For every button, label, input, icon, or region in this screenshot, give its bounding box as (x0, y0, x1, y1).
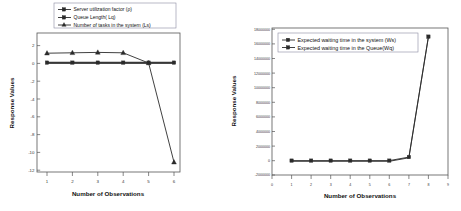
right-y-ticklabel-1: 16000000 (254, 42, 270, 46)
right-chart-legend: Expected waiting time in the system (Ws)… (278, 33, 418, 52)
left-yaxis-title: Response Values (8, 77, 15, 128)
left-y-ticklabel-6: -10 (28, 150, 35, 155)
left-chart-svg: Server utilization factor (ρ) Queue Leng… (0, 0, 230, 211)
right-x-ticklabel-2: 2 (310, 183, 312, 187)
left-xaxis-title: Number of Observations (72, 190, 145, 197)
right-x-ticklabel-5: 5 (369, 183, 371, 187)
left-legend-marker-square-1 (62, 16, 65, 19)
left-legend-label-0: Server utilization factor (ρ) (74, 6, 133, 12)
left-x-ticklabel-0: 1 (46, 179, 49, 184)
right-chart-svg: Expected waiting time in the system (Ws)… (230, 0, 461, 211)
left-y-ticklabel-4: -6 (31, 114, 35, 119)
left-chart-legend: Server utilization factor (ρ) Queue Leng… (54, 3, 176, 28)
right-xaxis-title: Number of Observations (324, 192, 397, 199)
left-legend-label-2: Number of tasks in the system (Ls) (74, 22, 152, 28)
left-y-axis: 2 0 -2 -4 -6 -8 -10 -12 (28, 43, 40, 173)
right-x-ticklabel-9: 9 (447, 183, 449, 187)
left-legend-marker-square-0 (62, 8, 65, 11)
right-marker-ws-0 (290, 159, 293, 162)
right-x-axis: 0 1 2 3 4 5 6 7 8 9 (271, 175, 449, 187)
left-x-axis: 1 2 3 4 5 6 (46, 172, 176, 184)
right-y-ticklabel-7: 4000000 (256, 130, 270, 134)
right-marker-ws-3 (349, 159, 352, 162)
left-marker-ls-5 (172, 160, 177, 164)
right-series-ws (290, 35, 430, 162)
left-y-ticklabel-7: -12 (28, 168, 35, 173)
right-legend-label-1: Expected waiting time in the Queue(Wq) (298, 45, 395, 51)
left-x-ticklabel-2: 3 (97, 179, 100, 184)
right-y-ticklabel-6: 6000000 (256, 115, 270, 119)
left-series-ls-line (47, 52, 174, 162)
right-series-wq-line (292, 37, 429, 161)
right-y-ticklabel-3: 12000000 (254, 72, 270, 76)
right-y-ticklabel-5: 8000000 (256, 101, 270, 105)
right-y-ticklabel-0: 18000000 (254, 28, 270, 32)
right-x-ticklabel-0: 0 (271, 183, 273, 187)
left-y-ticklabel-3: -4 (31, 97, 35, 102)
left-chart-panel: Server utilization factor (ρ) Queue Leng… (0, 0, 230, 211)
right-x-ticklabel-4: 4 (349, 183, 351, 187)
left-y-ticklabel-5: -8 (31, 132, 35, 137)
left-y-ticklabel-1: 0 (32, 61, 35, 66)
figure-pair: Server utilization factor (ρ) Queue Leng… (0, 0, 461, 211)
left-x-ticklabel-5: 6 (173, 179, 176, 184)
right-marker-ws-4 (368, 159, 371, 162)
left-x-ticklabel-4: 5 (147, 179, 150, 184)
right-marker-ws-5 (388, 159, 391, 162)
right-x-ticklabel-6: 6 (388, 183, 390, 187)
left-y-ticklabel-0: 2 (32, 43, 35, 48)
left-x-ticklabel-1: 2 (71, 179, 74, 184)
right-y-ticklabel-4: 10000000 (254, 86, 270, 90)
right-chart-panel: Expected waiting time in the system (Ws)… (230, 0, 461, 211)
left-legend-label-1: Queue Length( Lq) (74, 14, 116, 20)
right-legend-marker-square-1 (286, 46, 289, 49)
right-marker-ws-1 (309, 159, 312, 162)
right-marker-ws-2 (329, 159, 332, 162)
right-series-ws-line (292, 37, 429, 161)
right-x-ticklabel-7: 7 (408, 183, 410, 187)
right-x-ticklabel-1: 1 (291, 183, 293, 187)
right-legend-label-0: Expected waiting time in the system (Ws) (298, 37, 397, 43)
right-y-ticklabel-8: 2000000 (256, 145, 270, 149)
right-series-wq (292, 37, 429, 161)
left-series-ls (45, 50, 177, 164)
right-y-ticklabel-10: -2000000 (255, 173, 270, 177)
right-x-ticklabel-8: 8 (427, 183, 429, 187)
left-x-ticklabel-3: 4 (122, 179, 125, 184)
left-y-ticklabel-2: -2 (31, 79, 35, 84)
right-y-ticklabel-9: 0 (268, 159, 270, 163)
right-x-ticklabel-3: 3 (330, 183, 332, 187)
right-yaxis-title: Response Values (230, 75, 237, 126)
right-legend-marker-square-0 (286, 38, 289, 41)
right-y-ticklabel-2: 14000000 (254, 57, 270, 61)
